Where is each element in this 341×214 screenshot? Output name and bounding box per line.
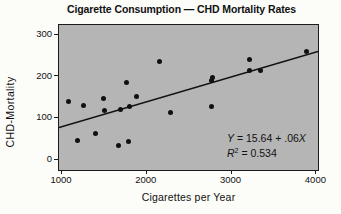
- data-point: [258, 68, 263, 73]
- y-axis-label: CHD-Mortality: [4, 76, 16, 147]
- plot-area: Y = 15.64 + .06XR2 = 0.534: [58, 24, 319, 171]
- data-point: [116, 143, 121, 148]
- y-tick-mark: [54, 34, 58, 35]
- data-point: [168, 110, 173, 115]
- y-tick-label: 100: [20, 111, 52, 122]
- data-point: [75, 138, 80, 143]
- data-point: [134, 94, 139, 99]
- annotation-line: Y = 15.64 + .06X: [227, 131, 306, 146]
- data-point: [209, 78, 214, 83]
- data-point: [101, 96, 106, 101]
- y-tick-label: 0: [20, 153, 52, 164]
- data-point: [304, 49, 309, 54]
- data-point: [81, 103, 86, 108]
- chart-title: Cigarette Consumption — CHD Mortality Ra…: [22, 3, 341, 15]
- annotation-line: R2 = 0.534: [227, 146, 306, 161]
- scatter-chart-figure: Cigarette Consumption — CHD Mortality Ra…: [0, 0, 341, 214]
- x-tick-label: 4000: [295, 174, 335, 185]
- regression-annotation: Y = 15.64 + .06XR2 = 0.534: [227, 131, 306, 161]
- data-point: [93, 131, 98, 136]
- y-tick-label: 200: [20, 70, 52, 81]
- x-tick-label: 2000: [126, 174, 166, 185]
- data-point: [102, 108, 107, 113]
- x-axis-label: Cigarettes per Year: [58, 191, 319, 203]
- data-point: [209, 104, 214, 109]
- data-point: [247, 57, 252, 62]
- data-point: [127, 104, 132, 109]
- x-tick-label: 1000: [41, 174, 81, 185]
- data-point: [247, 68, 252, 73]
- x-tick-label: 3000: [211, 174, 251, 185]
- data-point: [118, 107, 123, 112]
- data-point: [157, 59, 162, 64]
- data-point: [66, 99, 71, 104]
- y-tick-mark: [54, 75, 58, 76]
- data-point: [124, 80, 129, 85]
- y-tick-label: 300: [20, 28, 52, 39]
- y-tick-mark: [54, 159, 58, 160]
- data-point: [126, 139, 131, 144]
- y-tick-mark: [54, 117, 58, 118]
